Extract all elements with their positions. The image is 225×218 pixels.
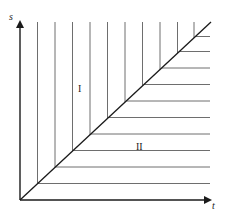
region-ii-label: II <box>136 141 143 152</box>
region-i-label: I <box>78 83 81 94</box>
region-ii-hatching <box>38 37 210 184</box>
t-axis-label: t <box>212 200 215 211</box>
s-axis-label: s <box>9 11 13 22</box>
integration-region-diagram: s t I II <box>0 0 225 218</box>
diagonal-line <box>20 22 211 200</box>
region-i-hatching <box>38 22 195 184</box>
